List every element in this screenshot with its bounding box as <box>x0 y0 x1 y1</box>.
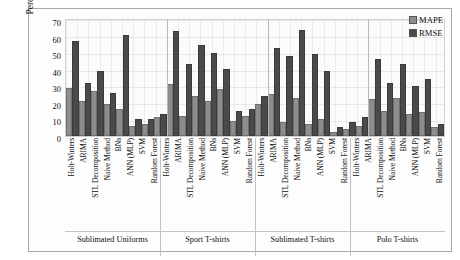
x-tick-label: Holt-Winters <box>65 138 77 230</box>
x-tick-label-text: Random Forest <box>340 138 349 183</box>
x-tick-label: BNs <box>113 138 125 230</box>
x-tick-label-text: BNs <box>114 138 123 151</box>
x-tick-label-text: SVM <box>328 138 337 154</box>
bar-groups <box>66 20 444 136</box>
x-tick-label: ARIMA <box>267 138 279 230</box>
x-tick-label-text: Random Forest <box>435 138 444 183</box>
group-label: Sublimated T-shirts <box>255 232 350 248</box>
bar-pair <box>179 20 192 136</box>
x-tick-label: Naive Method <box>291 138 303 230</box>
x-tick-label: STL Decomposition <box>374 138 386 230</box>
x-label-group: Holt-WintersARIMASTL DecompositionNaive … <box>350 138 445 230</box>
bar-group <box>167 20 268 136</box>
x-axis-group-labels: Sublimated UniformsSport T-shirtsSublima… <box>65 231 445 248</box>
x-tick-label-text: SVM <box>138 138 147 154</box>
legend-swatch-mape-icon <box>409 16 417 24</box>
x-tick-label: Random Forest <box>433 138 445 230</box>
x-tick-label: BNs <box>303 138 315 230</box>
bar-pair <box>142 20 155 136</box>
bar-pair <box>268 20 281 136</box>
x-tick-label: Random Forest <box>148 138 160 230</box>
bar-pair <box>66 20 79 136</box>
x-tick-label-text: ANN (MLP) <box>411 138 420 176</box>
bar-group <box>268 20 369 136</box>
x-tick-label: BNs <box>398 138 410 230</box>
bar-pair <box>129 20 142 136</box>
bar-pair <box>79 20 92 136</box>
x-tick-label-text: Random Forest <box>245 138 254 183</box>
bar-pair <box>330 20 343 136</box>
bar-pair <box>242 20 255 136</box>
x-tick-label: BNs <box>208 138 220 230</box>
x-tick-label-text: ARIMA <box>268 138 277 163</box>
x-tick-label-text: STL Decomposition <box>185 138 194 198</box>
legend-item-mape: MAPE <box>409 15 443 25</box>
x-tick-label: ANN (MLP) <box>124 138 136 230</box>
bar-pair <box>280 20 293 136</box>
legend-label-rmse: RMSE <box>419 28 442 38</box>
x-tick-label-text: STL Decomposition <box>90 138 99 198</box>
x-tick-label: SVM <box>136 138 148 230</box>
x-tick-label: ANN (MLP) <box>219 138 231 230</box>
bar-mape <box>444 126 445 136</box>
bar-group <box>66 20 167 136</box>
x-tick-label: ARIMA <box>362 138 374 230</box>
bar-pair <box>293 20 306 136</box>
x-tick-label-text: Random Forest <box>150 138 159 183</box>
bar-pair <box>91 20 104 136</box>
x-tick-label: Holt-Winters <box>160 138 172 230</box>
y-tick-label: 60 <box>39 36 61 44</box>
x-tick-label-text: STL Decomposition <box>375 138 384 198</box>
bar-pair <box>230 20 243 136</box>
x-tick-label-text: STL Decomposition <box>280 138 289 198</box>
x-tick-label: ARIMA <box>172 138 184 230</box>
bar-pair <box>318 20 331 136</box>
x-tick-label: STL Decomposition <box>184 138 196 230</box>
x-tick-label-text: BNs <box>209 138 218 151</box>
x-label-group: Holt-WintersARIMASTL DecompositionNaive … <box>65 138 160 230</box>
x-tick-label-text: SVM <box>423 138 432 154</box>
bar-pair <box>444 20 445 136</box>
bar-pair <box>205 20 218 136</box>
bar-pair <box>154 20 167 136</box>
bar-pair <box>167 20 180 136</box>
x-label-group: Holt-WintersARIMASTL DecompositionNaive … <box>160 138 255 230</box>
x-tick-label-text: Holt-Winters <box>351 138 360 177</box>
plot-area <box>65 19 445 137</box>
bar-pair <box>381 20 394 136</box>
x-tick-label-text: Holt-Winters <box>161 138 170 177</box>
bar-pair <box>356 20 369 136</box>
x-tick-label-text: Holt-Winters <box>66 138 75 177</box>
x-tick-label-text: Naive Method <box>292 138 301 180</box>
x-tick-label-text: ARIMA <box>78 138 87 163</box>
x-tick-label: ANN (MLP) <box>314 138 326 230</box>
y-tick-label: 40 <box>39 69 61 77</box>
legend-swatch-rmse-icon <box>409 29 417 37</box>
x-tick-label-text: ANN (MLP) <box>221 138 230 176</box>
bar-pair <box>192 20 205 136</box>
y-tick-label: 50 <box>39 52 61 60</box>
bar-pair <box>255 20 268 136</box>
x-tick-label-text: SVM <box>233 138 242 154</box>
bar-pair <box>368 20 381 136</box>
bar-pair <box>343 20 356 136</box>
y-axis-tick-labels: 706050403020100 <box>37 13 61 143</box>
x-tick-label: Random Forest <box>338 138 350 230</box>
group-label: Sport T-shirts <box>160 232 255 248</box>
x-tick-label-text: Naive Method <box>387 138 396 180</box>
x-tick-label: ARIMA <box>77 138 89 230</box>
group-label: Sublimated Uniforms <box>65 232 160 248</box>
bar-pair <box>305 20 318 136</box>
legend-item-rmse: RMSE <box>409 28 443 38</box>
y-tick-label: 20 <box>39 102 61 110</box>
group-label: Polo T-shirts <box>350 232 445 248</box>
x-tick-label-text: ARIMA <box>173 138 182 163</box>
x-tick-label-text: Naive Method <box>102 138 111 180</box>
x-tick-label-text: ANN (MLP) <box>126 138 135 176</box>
x-tick-label: Naive Method <box>101 138 113 230</box>
x-tick-label: Naive Method <box>386 138 398 230</box>
x-tick-label: SVM <box>326 138 338 230</box>
bar-pair <box>104 20 117 136</box>
chart-legend: MAPE RMSE <box>409 15 443 41</box>
x-tick-label: Naive Method <box>196 138 208 230</box>
